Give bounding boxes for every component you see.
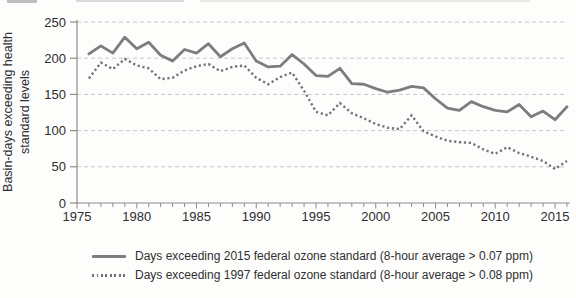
legend-item-1997-standard: Days exceeding 1997 federal ozone standa… — [92, 268, 533, 282]
tick-labels: 0501001502002501975198019851990199520002… — [44, 15, 569, 225]
x-tick-label: 2015 — [541, 209, 570, 224]
y-tick-label: 100 — [44, 123, 66, 138]
x-tick-label: 2010 — [481, 209, 510, 224]
x-tick-label: 2005 — [421, 209, 450, 224]
solid-line-swatch-icon — [92, 255, 126, 258]
y-tick-label: 250 — [44, 15, 66, 30]
x-tick-label: 1980 — [122, 209, 151, 224]
y-axis-title-line2: standard levels — [17, 17, 34, 207]
x-tick-label: 1985 — [182, 209, 211, 224]
y-tick-label: 50 — [52, 159, 66, 174]
y-tick-label: 150 — [44, 87, 66, 102]
x-tick-label: 2000 — [361, 209, 390, 224]
y-tick-label: 200 — [44, 51, 66, 66]
x-tick-label: 1990 — [242, 209, 271, 224]
x-tick-label: 1975 — [63, 209, 92, 224]
y-axis-title: Basin-days exceeding health standard lev… — [0, 17, 34, 207]
y-axis-title-line1: Basin-days exceeding health — [0, 17, 17, 207]
ozone-trend-figure: 0501001502002501975198019851990199520002… — [0, 0, 576, 298]
legend-label-1997: Days exceeding 1997 federal ozone standa… — [135, 268, 533, 282]
legend-label-2015: Days exceeding 2015 federal ozone standa… — [135, 249, 533, 263]
legend-item-2015-standard: Days exceeding 2015 federal ozone standa… — [92, 249, 533, 263]
axis-ticks — [70, 22, 567, 209]
x-tick-label: 1995 — [302, 209, 331, 224]
legend: Days exceeding 2015 federal ozone standa… — [92, 249, 533, 282]
dotted-line-swatch-icon — [92, 274, 126, 277]
series-2015-solid-line — [89, 37, 567, 120]
